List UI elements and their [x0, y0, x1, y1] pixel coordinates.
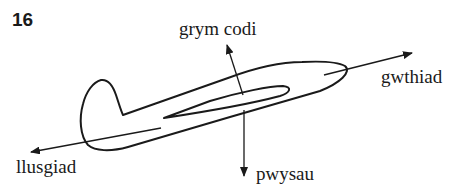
lift-label: grym codi	[179, 18, 257, 40]
lift-arrow	[227, 45, 243, 95]
thrust-label: gwthiad	[381, 66, 442, 88]
airplane-outline	[81, 62, 347, 151]
weight-label: pwysau	[256, 163, 314, 185]
drag-label: llusgiad	[16, 156, 76, 178]
